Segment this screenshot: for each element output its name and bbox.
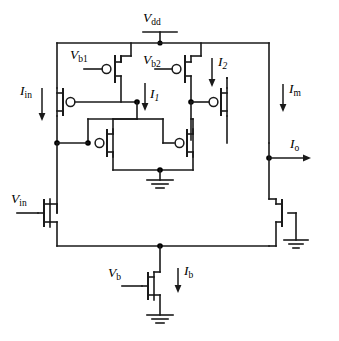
- label-vdd: Vdd: [143, 10, 161, 27]
- node-i1: [134, 99, 140, 119]
- label-vin: Vin: [11, 191, 27, 208]
- current-arrow-i2: [209, 58, 216, 87]
- current-arrow-i1: [142, 83, 149, 111]
- nmos-vb: [122, 246, 173, 323]
- current-arrow-io: [269, 155, 311, 162]
- pmos-bubble-mirror-right: [175, 139, 184, 148]
- label-vb2: Vb2: [143, 52, 161, 69]
- pmos-bubble-mirror-left: [95, 139, 104, 148]
- pmos-bubble-left-cascode: [66, 98, 75, 107]
- pmos-bubble-vb2: [172, 65, 181, 74]
- label-im: Im: [288, 81, 302, 98]
- current-arrow-im: [280, 84, 287, 112]
- bottom-rail: [57, 243, 269, 249]
- vdd-supply: [57, 32, 269, 46]
- current-arrow-iin: [39, 88, 46, 121]
- label-io: Io: [289, 136, 300, 153]
- pmos-bubble-vb1: [102, 65, 111, 74]
- left-node-column: [54, 140, 88, 213]
- label-ib: Ib: [183, 263, 194, 280]
- left-branch: [57, 43, 137, 143]
- label-vb1: Vb1: [70, 47, 88, 64]
- label-i1: I1: [149, 86, 159, 103]
- pmos-bubble-right-cascode: [209, 98, 218, 107]
- label-i2: I2: [217, 54, 228, 71]
- pmos-vb1: [84, 43, 131, 102]
- mirror-pair: [85, 119, 193, 188]
- label-iin: Iin: [19, 83, 32, 100]
- pmos-vb2: [155, 43, 201, 102]
- label-vb: Vb: [108, 265, 121, 282]
- current-arrow-ib: [175, 268, 182, 293]
- circuit-schematic: Vdd Vb1 Vb2 Iin I1 I2 Im Io Vin Vb Ib: [0, 0, 339, 341]
